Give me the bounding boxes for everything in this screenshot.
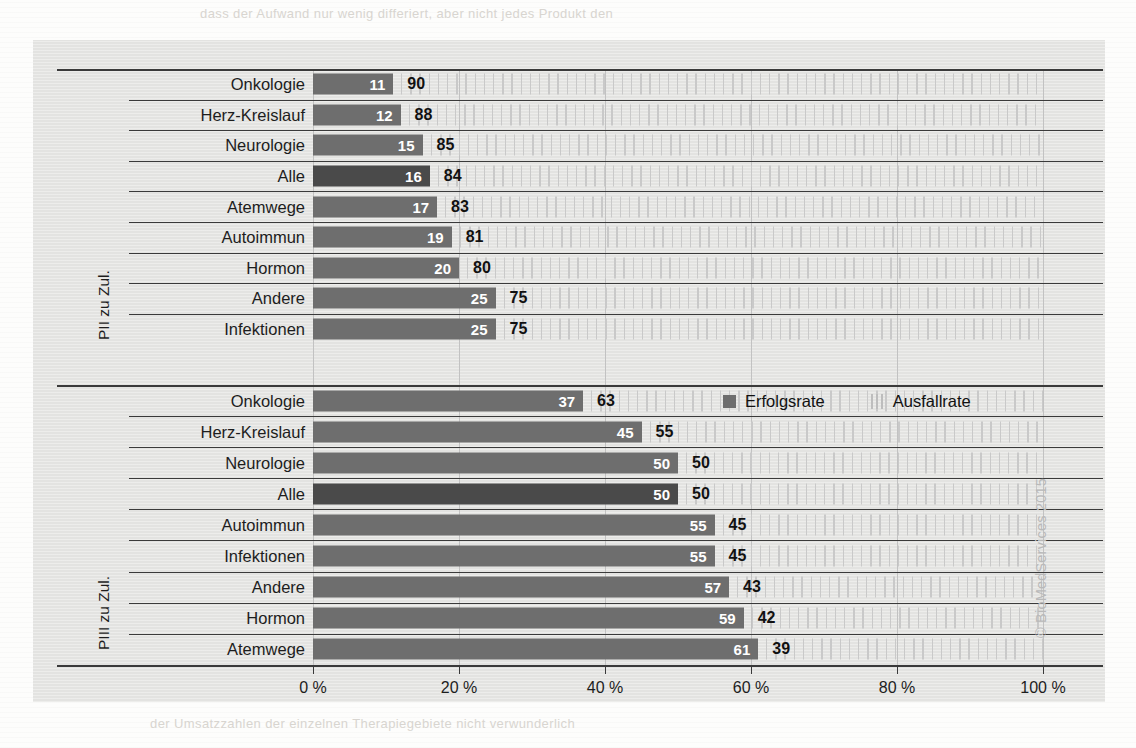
bar-ausfallrate <box>460 227 1043 248</box>
bar-erfolgsrate <box>313 452 678 473</box>
row-separator <box>129 509 1103 510</box>
legend-label-erfolgsrate: Erfolgsrate <box>745 392 825 411</box>
value-label-erfolgsrate: 19 <box>416 229 444 246</box>
row-separator <box>129 572 1103 573</box>
value-label-ausfallrate: 83 <box>451 198 469 216</box>
value-label-erfolgsrate: 55 <box>679 516 707 533</box>
bar-row: Andere2575 <box>33 283 1105 314</box>
category-label: Andere <box>129 578 305 597</box>
row-separator <box>129 130 1103 131</box>
category-label: Alle <box>129 167 305 186</box>
x-axis-line <box>57 665 1103 667</box>
x-axis-tick <box>459 665 460 674</box>
value-label-ausfallrate: 80 <box>473 259 491 277</box>
value-label-erfolgsrate: 11 <box>357 76 385 93</box>
bar-row: Autoimmun5545 <box>33 509 1105 540</box>
value-label-ausfallrate: 63 <box>597 392 615 410</box>
category-label: Atemwege <box>129 197 305 216</box>
value-label-erfolgsrate: 61 <box>722 641 750 658</box>
x-axis-tick-label: 0 % <box>299 679 327 697</box>
row-separator <box>129 634 1103 635</box>
row-separator <box>129 314 1103 315</box>
value-label-ausfallrate: 45 <box>729 547 747 565</box>
bar-ausfallrate <box>438 166 1043 187</box>
bar-ausfallrate <box>504 319 1044 340</box>
x-axis-tick-label: 60 % <box>733 679 769 697</box>
value-label-ausfallrate: 75 <box>510 289 528 307</box>
x-axis-tick <box>313 665 314 674</box>
value-label-erfolgsrate: 25 <box>460 290 488 307</box>
bar-ausfallrate <box>723 546 1044 567</box>
category-label: Onkologie <box>129 391 305 410</box>
bar-ausfallrate <box>431 135 1044 156</box>
value-label-ausfallrate: 50 <box>692 454 710 472</box>
bar-ausfallrate <box>445 196 1043 217</box>
row-separator <box>129 191 1103 192</box>
bar-row: Hormon5942 <box>33 603 1105 634</box>
category-label: Herz-Kreislauf <box>129 422 305 441</box>
value-label-ausfallrate: 75 <box>510 320 528 338</box>
value-label-erfolgsrate: 50 <box>642 485 670 502</box>
category-label: Autoimmun <box>129 228 305 247</box>
category-label: Infektionen <box>129 547 305 566</box>
category-label: Neurologie <box>129 453 305 472</box>
row-separator <box>129 283 1103 284</box>
value-label-ausfallrate: 55 <box>656 423 674 441</box>
bar-row: Alle1684 <box>33 161 1105 192</box>
category-label: Atemwege <box>129 640 305 659</box>
bar-row: Infektionen2575 <box>33 314 1105 345</box>
value-label-erfolgsrate: 20 <box>423 259 451 276</box>
x-axis-tick <box>897 665 898 674</box>
value-label-erfolgsrate: 50 <box>642 454 670 471</box>
bar-row: Neurologie5050 <box>33 447 1105 478</box>
value-label-erfolgsrate: 37 <box>547 392 575 409</box>
bar-row: Neurologie1585 <box>33 130 1105 161</box>
x-axis-tick-label: 80 % <box>879 679 915 697</box>
row-separator <box>129 416 1103 417</box>
bleedthrough-text-top: dass der Aufwand nur wenig differiert, a… <box>200 6 613 21</box>
bar-erfolgsrate <box>313 390 583 411</box>
value-label-erfolgsrate: 25 <box>460 321 488 338</box>
bar-row: Onkologie1190 <box>33 69 1105 100</box>
bar-ausfallrate <box>766 639 1043 660</box>
bleedthrough-text-bottom: der Umsatzzahlen der einzelnen Therapieg… <box>150 716 575 731</box>
bar-erfolgsrate <box>313 514 715 535</box>
row-separator <box>129 447 1103 448</box>
bar-row: Herz-Kreislauf1288 <box>33 100 1105 131</box>
bar-row: Infektionen5545 <box>33 540 1105 571</box>
value-label-ausfallrate: 81 <box>466 228 484 246</box>
x-axis-tick-label: 40 % <box>587 679 623 697</box>
bar-ausfallrate <box>686 483 1043 504</box>
bar-row: Alle5050 <box>33 478 1105 509</box>
legend-swatch-solid-icon <box>723 395 736 408</box>
legend-swatch-hatch-icon <box>871 394 884 409</box>
value-label-ausfallrate: 84 <box>444 167 462 185</box>
bar-ausfallrate <box>504 288 1044 309</box>
bar-row: Hormon2080 <box>33 253 1105 284</box>
bar-row: Andere5743 <box>33 572 1105 603</box>
value-label-ausfallrate: 90 <box>407 75 425 93</box>
value-label-erfolgsrate: 17 <box>401 198 429 215</box>
value-label-ausfallrate: 39 <box>772 640 790 658</box>
row-separator <box>129 253 1103 254</box>
row-separator <box>129 540 1103 541</box>
bar-group-pii: Onkologie1190Herz-Kreislauf1288Neurologi… <box>33 69 1105 345</box>
x-axis-tick-label: 20 % <box>441 679 477 697</box>
category-label: Onkologie <box>129 75 305 94</box>
value-label-erfolgsrate: 55 <box>679 548 707 565</box>
value-label-ausfallrate: 42 <box>758 609 776 627</box>
x-axis-tick <box>1043 665 1044 674</box>
value-label-erfolgsrate: 15 <box>387 137 415 154</box>
value-label-erfolgsrate: 16 <box>394 168 422 185</box>
value-label-ausfallrate: 85 <box>437 136 455 154</box>
category-label: Alle <box>129 484 305 503</box>
row-separator <box>57 69 1103 71</box>
value-label-ausfallrate: 43 <box>743 578 761 596</box>
legend-item-ausfallrate: Ausfallrate <box>871 392 971 411</box>
category-label: Hormon <box>129 258 305 277</box>
bar-ausfallrate <box>723 514 1044 535</box>
category-label: Autoimmun <box>129 515 305 534</box>
row-separator <box>129 222 1103 223</box>
bar-row: Atemwege1783 <box>33 191 1105 222</box>
value-label-erfolgsrate: 57 <box>693 579 721 596</box>
